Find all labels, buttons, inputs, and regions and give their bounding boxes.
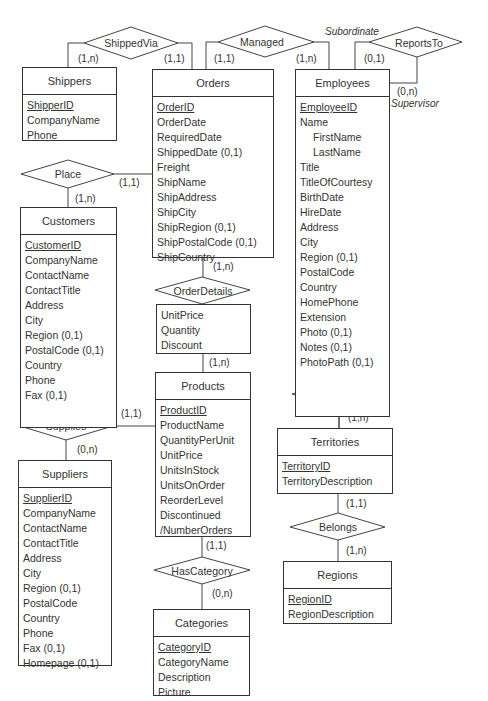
attribute: RegionDescription [288,607,387,622]
relationship-place-label: Place [55,169,81,180]
entity-orders-name: Orders [153,70,273,97]
entity-regions: Regions RegionID RegionDescription [283,561,392,624]
cardinality-place-customers: (1,n) [75,193,96,204]
entity-employees-attributes: EmployeeID Name FirstName LastName Title… [296,97,389,372]
attribute-primary-key: CustomerID [25,238,112,253]
relationship-hascategory-label: HasCategory [171,566,232,577]
entity-employees-name: Employees [296,70,389,97]
attribute: CompanyName [25,253,112,268]
attribute: BirthDate [300,190,385,205]
cardinality-hascategory-products: (1,1) [206,540,227,551]
cardinality-reportsto-supervisor: (0,n) [397,86,418,97]
relationship-attribute: UnitPrice [161,308,246,323]
cardinality-shippedvia-shippers: (1,n) [78,53,99,64]
attribute: ShipPostalCode (0,1) [157,235,269,250]
attribute: UnitsOnOrder [160,478,246,493]
attribute: Freight [157,160,269,175]
attribute: Address [23,551,107,566]
cardinality-reportsto-subordinate: (0,1) [364,53,385,64]
attribute: ShipAddress [157,190,269,205]
attribute: City [23,566,107,581]
attribute: Region (0,1) [300,250,385,265]
attribute-primary-key: OrderID [157,100,269,115]
attribute: ContactTitle [23,536,107,551]
attribute: Country [23,611,107,626]
entity-customers-name: Customers [21,208,116,235]
attribute: ShippedDate (0,1) [157,145,269,160]
attribute: Address [25,298,112,313]
attribute: Address [300,220,385,235]
attribute: HomePhone [300,295,385,310]
attribute: TerritoryDescription [282,474,388,489]
attribute: City [300,235,385,250]
attribute: Description [158,670,245,685]
entity-shippers-name: Shippers [23,68,116,95]
attribute: City [25,313,112,328]
attribute-derived: /NumberOrders [160,523,246,538]
attribute: ContactName [23,521,107,536]
entity-territories: Territories TerritoryID TerritoryDescrip… [277,428,393,494]
cardinality-shippedvia-orders: (1,1) [164,53,185,64]
attribute-primary-key: SupplierID [23,491,107,506]
attribute: ShipRegion (0,1) [157,220,269,235]
entity-orders-attributes: OrderID OrderDate RequiredDate ShippedDa… [153,97,273,267]
attribute-primary-key: ProductID [160,403,246,418]
entity-products-name: Products [156,373,250,400]
cardinality-managed-employees: (1,n) [296,53,317,64]
attribute: RequiredDate [157,130,269,145]
cardinality-place-orders: (1,1) [119,177,140,188]
attribute: ProductName [160,418,246,433]
attribute: Region (0,1) [23,581,107,596]
attribute-component: FirstName [300,130,385,145]
relationship-attribute: Discount [161,338,246,353]
attribute: OrderDate [157,115,269,130]
attribute: Extension [300,310,385,325]
entity-categories: Categories CategoryID CategoryName Descr… [153,609,250,696]
entity-regions-attributes: RegionID RegionDescription [284,589,391,624]
entity-suppliers-name: Suppliers [19,461,111,488]
attribute: ShipName [157,175,269,190]
cardinality-supplies-suppliers: (0,n) [77,444,98,455]
attribute: TitleOfCourtesy [300,175,385,190]
entity-territories-attributes: TerritoryID TerritoryDescription [278,456,392,491]
relationship-reportsto-label: ReportsTo [395,38,443,49]
entity-suppliers: Suppliers SupplierID CompanyName Contact… [18,460,112,666]
attribute: Fax (0,1) [25,388,112,403]
attribute-component: LastName [300,145,385,160]
cardinality-managed-orders: (1,1) [214,53,235,64]
entity-shippers-attributes: ShipperID CompanyName Phone [23,95,116,145]
attribute: Photo (0,1) [300,325,385,340]
entity-categories-attributes: CategoryID CategoryName Description Pict… [154,637,249,701]
attribute: ShipCountry [157,250,269,265]
entity-shippers: Shippers ShipperID CompanyName Phone [22,67,117,141]
attribute: Homepage (0,1) [23,656,107,671]
relationship-attribute: Quantity [161,323,246,338]
attribute: UnitsInStock [160,463,246,478]
role-supervisor: Supervisor [391,98,439,109]
relationship-managed-label: Managed [240,37,284,48]
attribute: Country [300,280,385,295]
attribute: HireDate [300,205,385,220]
attribute: Country [25,358,112,373]
attribute: PostalCode (0,1) [25,343,112,358]
attribute-primary-key: CategoryID [158,640,245,655]
attribute: ShipCity [157,205,269,220]
attribute: Picture [158,685,245,700]
attribute-primary-key: RegionID [288,592,387,607]
relationship-belongs-label: Belongs [319,522,357,533]
cardinality-supplies-products: (1,1) [121,408,142,419]
cardinality-orderdetails-products: (1,n) [209,357,230,368]
attribute: ReorderLevel [160,493,246,508]
attribute: Phone [25,373,112,388]
relationship-orderdetails-attributes: UnitPrice Quantity Discount [156,304,251,354]
relationship-orderdetails-label: OrderDetails [174,286,233,297]
attribute: PostalCode [23,596,107,611]
attribute: Phone [27,128,112,143]
role-subordinate: Subordinate [325,26,379,37]
attribute: Notes (0,1) [300,340,385,355]
attribute: PhotoPath (0,1) [300,355,385,370]
entity-customers: Customers CustomerID CompanyName Contact… [20,207,117,428]
attribute: CompanyName [23,506,107,521]
entity-suppliers-attributes: SupplierID CompanyName ContactName Conta… [19,488,111,673]
relationship-shippedvia-label: ShippedVia [104,38,158,49]
